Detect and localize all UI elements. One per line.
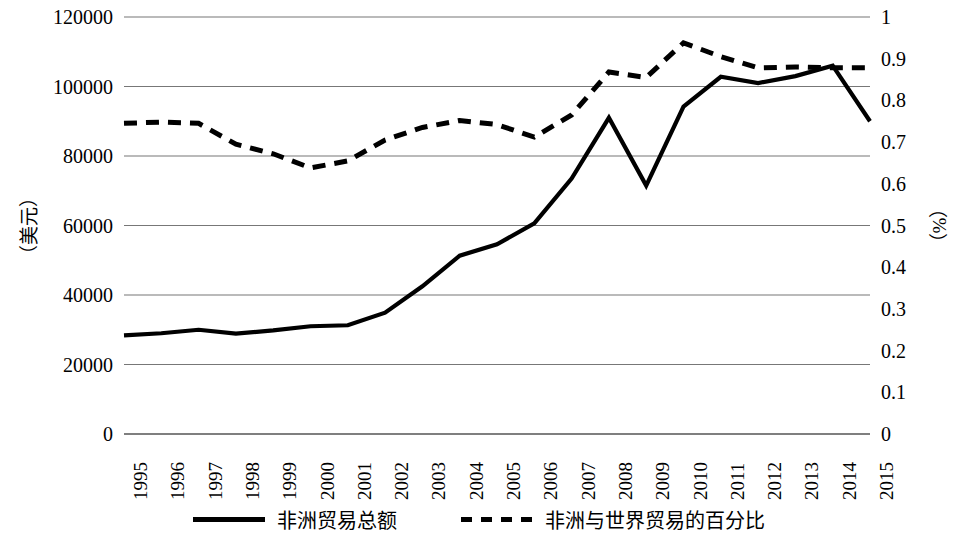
legend-item-share-percent: 非洲与世界贸易的百分比 bbox=[461, 505, 765, 534]
dashed-line-swatch bbox=[461, 517, 533, 523]
chart-legend: 非洲贸易总额 非洲与世界贸易的百分比 bbox=[0, 505, 957, 534]
legend-label-total-trade: 非洲贸易总额 bbox=[277, 505, 397, 534]
plot-area bbox=[0, 0, 957, 538]
series-line-2 bbox=[124, 43, 870, 168]
line-chart: （美元） （%） 0200004000060000800001000001200… bbox=[0, 0, 957, 538]
legend-label-share-percent: 非洲与世界贸易的百分比 bbox=[545, 505, 765, 534]
solid-line-swatch bbox=[193, 517, 265, 522]
legend-item-total-trade: 非洲贸易总额 bbox=[193, 505, 397, 534]
gridlines bbox=[124, 17, 870, 434]
